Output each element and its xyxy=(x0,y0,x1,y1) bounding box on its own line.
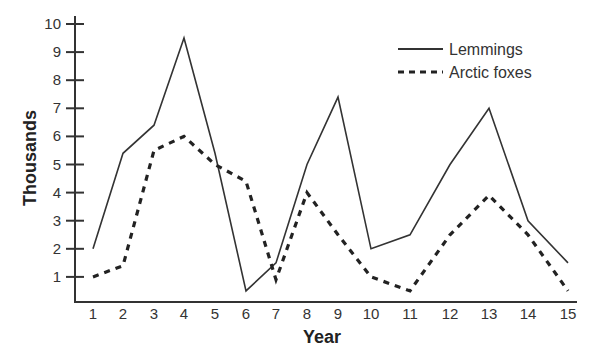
y-ticks: 12345678910 xyxy=(44,15,84,285)
x-tick-label: 8 xyxy=(303,305,311,322)
y-tick-label: 9 xyxy=(53,43,61,60)
y-tick-label: 3 xyxy=(53,212,61,229)
x-tick-label: 1 xyxy=(89,305,97,322)
x-tick-label: 12 xyxy=(442,305,459,322)
x-ticks: 123456789101112131415 xyxy=(89,305,577,322)
axes xyxy=(74,16,577,302)
x-tick-label: 10 xyxy=(363,305,380,322)
x-tick-label: 11 xyxy=(402,305,418,322)
x-tick-label: 2 xyxy=(119,305,127,322)
x-tick-label: 7 xyxy=(272,305,280,322)
y-tick-label: 8 xyxy=(53,71,61,88)
y-tick-label: 10 xyxy=(44,15,61,32)
y-tick-label: 2 xyxy=(53,240,61,257)
legend: Lemmings Arctic foxes xyxy=(398,41,532,81)
y-axis-title: Thousands xyxy=(20,110,40,206)
x-tick-label: 15 xyxy=(560,305,577,322)
y-tick-label: 6 xyxy=(53,127,61,144)
x-tick-label: 6 xyxy=(242,305,250,322)
x-tick-label: 9 xyxy=(334,305,342,322)
y-tick-label: 5 xyxy=(53,156,61,173)
series-line-arctic-foxes xyxy=(93,136,568,291)
line-chart: 12345678910 123456789101112131415 Thousa… xyxy=(0,0,594,359)
x-tick-label: 3 xyxy=(150,305,158,322)
x-axis-title: Year xyxy=(303,327,341,347)
x-tick-label: 14 xyxy=(520,305,537,322)
x-tick-label: 13 xyxy=(481,305,498,322)
y-tick-label: 1 xyxy=(53,268,61,285)
x-tick-label: 5 xyxy=(211,305,219,322)
y-tick-label: 7 xyxy=(53,99,61,116)
legend-label-arctic-foxes: Arctic foxes xyxy=(449,64,532,81)
y-tick-label: 4 xyxy=(53,184,61,201)
legend-label-lemmings: Lemmings xyxy=(449,41,523,58)
x-tick-label: 4 xyxy=(180,305,188,322)
